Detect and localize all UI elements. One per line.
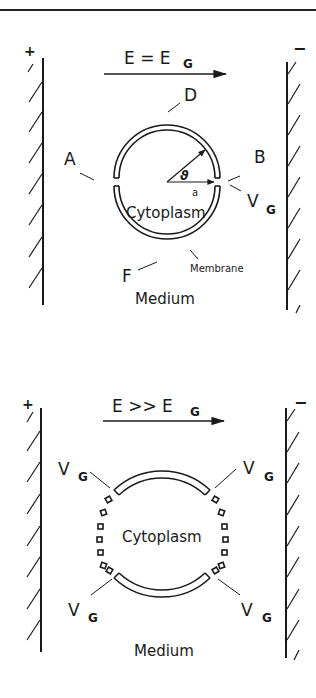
label-B: B xyxy=(254,147,266,167)
left-electrode-top xyxy=(28,58,43,305)
voltage-label-top-right: V xyxy=(243,458,255,478)
radius-a-label: a xyxy=(192,187,198,198)
radius-angle-construction xyxy=(167,150,214,182)
label-D: D xyxy=(184,85,197,105)
field-subscript-top: G xyxy=(183,57,193,71)
label-voltage-top: V xyxy=(247,191,259,211)
negative-sign-top: − xyxy=(293,39,306,58)
positive-sign-top: + xyxy=(24,43,36,59)
label-medium-top: Medium xyxy=(135,290,195,308)
left-electrode-bottom xyxy=(27,408,41,652)
bottom-panel: + − E >> E G xyxy=(22,393,307,660)
field-label-top: E = E xyxy=(124,48,171,68)
label-A: A xyxy=(64,149,76,169)
right-electrode-top xyxy=(287,62,300,313)
label-cytoplasm-top: Cytoplasm xyxy=(126,204,206,222)
voltage-sub-bottom-right: G xyxy=(262,611,272,625)
field-subscript-bottom: G xyxy=(190,405,200,419)
membrane-pores-left xyxy=(97,496,113,574)
membrane-pores-right xyxy=(212,496,228,574)
voltage-label-bottom-right: V xyxy=(241,600,253,620)
cell-electroporation-diagram: + − E = E G xyxy=(0,0,316,698)
angle-theta-label: ϑ xyxy=(180,168,189,183)
field-label-bottom: E >> E xyxy=(112,396,173,416)
voltage-sub-bottom-left: G xyxy=(88,611,98,625)
label-cytoplasm-bottom: Cytoplasm xyxy=(122,528,202,546)
label-F: F xyxy=(122,266,132,286)
positive-sign-bottom: + xyxy=(22,396,34,412)
negative-sign-bottom: − xyxy=(294,393,307,412)
diagram-frame: + − E = E G xyxy=(0,0,316,698)
label-membrane: Membrane xyxy=(190,263,244,274)
voltage-label-top-left: V xyxy=(58,459,70,479)
label-voltage-sub-top: G xyxy=(266,203,276,217)
voltage-sub-top-right: G xyxy=(264,470,274,484)
label-medium-bottom: Medium xyxy=(134,642,194,660)
right-electrode-bottom xyxy=(286,408,299,660)
voltage-sub-top-left: G xyxy=(78,470,88,484)
voltage-label-bottom-left: V xyxy=(68,600,80,620)
top-panel: + − E = E G xyxy=(24,39,306,313)
